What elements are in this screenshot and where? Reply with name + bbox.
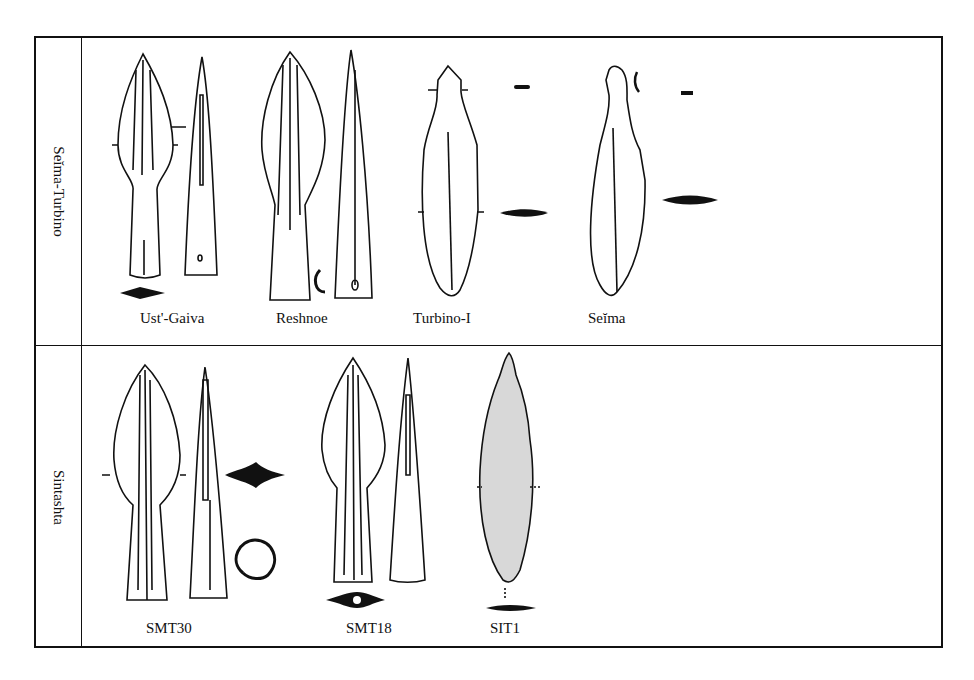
caption-sit1: SIT1 [490, 620, 520, 637]
caption-turbino-i: Turbino-I [413, 310, 471, 327]
caption-smt18: SMT18 [346, 620, 392, 637]
spearhead-seima-front-icon [591, 66, 646, 295]
caption-seima: Seĭma [588, 310, 626, 327]
spearhead-ust-gaiva-side-icon [185, 57, 217, 275]
spearhead-turbino-front-icon [422, 66, 478, 296]
cross-section-icon [486, 605, 536, 611]
spearhead-smt18-front-icon [322, 358, 385, 582]
spearhead-drawings [0, 0, 974, 680]
spearhead-smt30-front-icon [114, 365, 180, 600]
caption-ust-gaiva: Ust'-Gaiva [140, 310, 204, 327]
cross-section-icon [225, 462, 285, 488]
spearhead-reshnoe-side-icon [315, 50, 372, 298]
spearhead-ust-gaiva-front-icon [118, 54, 173, 278]
cross-section-icon [500, 209, 548, 217]
cross-section-icon [514, 85, 530, 89]
spearhead-smt30-side-icon [190, 367, 227, 598]
spearhead-sit1-front-icon [480, 353, 533, 582]
spearhead-reshnoe-front-icon [262, 52, 325, 300]
spearhead-smt18-side-icon [390, 358, 425, 582]
socket-ring-icon [236, 540, 275, 579]
caption-smt30: SMT30 [146, 620, 192, 637]
cross-section-icon [662, 196, 718, 205]
cross-section-icon [120, 287, 165, 299]
cross-section-icon [681, 91, 693, 95]
caption-reshnoe: Reshnoe [276, 310, 328, 327]
